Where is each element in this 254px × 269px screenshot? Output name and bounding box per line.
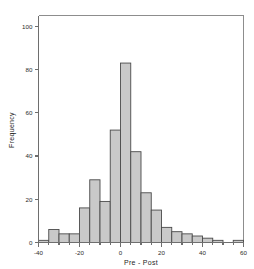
histogram-plot: -40-200204060 020406080100 Pre - Post Fr…	[0, 0, 254, 269]
histogram-bar	[192, 236, 202, 242]
histogram-bar	[59, 234, 69, 243]
histogram-bar	[203, 238, 213, 242]
x-tick-label: 20	[158, 249, 166, 256]
y-tick-label: 40	[25, 152, 33, 159]
histogram-bar	[110, 130, 120, 242]
histogram-bar	[49, 230, 59, 243]
histogram-bar	[182, 234, 192, 243]
y-tick-label: 80	[25, 66, 33, 73]
histogram-bar	[69, 234, 79, 243]
y-tick-label: 60	[25, 109, 33, 116]
histogram-bar	[141, 193, 151, 243]
histogram-bar	[151, 210, 161, 242]
histogram-bar	[80, 208, 90, 243]
histogram-bar	[121, 63, 131, 242]
y-tick-label: 0	[29, 239, 33, 246]
x-tick-label: 60	[240, 249, 248, 256]
y-tick-label: 100	[22, 23, 33, 30]
y-tick-label: 20	[25, 196, 33, 203]
x-tick-label: -40	[34, 249, 44, 256]
x-tick-label: 0	[119, 249, 123, 256]
x-tick-label: 40	[199, 249, 207, 256]
histogram-bar	[162, 227, 172, 242]
histogram-bar	[100, 201, 110, 242]
histogram-bar	[172, 232, 182, 243]
histogram-figure: -40-200204060 020406080100 Pre - Post Fr…	[0, 0, 254, 269]
histogram-bar	[131, 152, 141, 243]
x-tick-label: -20	[75, 249, 85, 256]
y-axis-title: Frequency	[8, 112, 16, 148]
histogram-bar	[90, 180, 100, 243]
x-axis-title: Pre - Post	[124, 259, 158, 266]
